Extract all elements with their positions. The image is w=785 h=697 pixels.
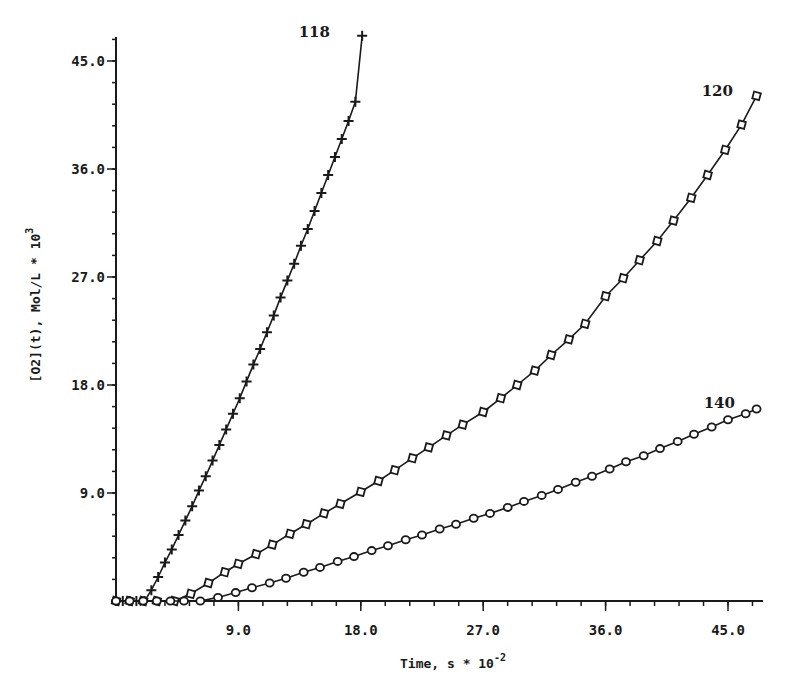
plus-marker — [201, 471, 211, 481]
square-marker — [336, 500, 345, 509]
plus-marker — [269, 310, 279, 320]
diamond-marker — [112, 597, 120, 604]
diamond-marker — [316, 564, 324, 571]
square-marker — [565, 335, 574, 344]
plus-marker — [153, 572, 163, 582]
plus-marker — [337, 134, 347, 144]
square-marker — [752, 92, 761, 101]
square-marker — [513, 381, 522, 390]
y-axis-title: [O2](t), Mol/L * 103 — [24, 228, 43, 383]
square-marker — [268, 540, 277, 549]
plus-marker — [296, 241, 306, 251]
diamond-marker — [153, 597, 161, 604]
diamond-marker — [180, 597, 188, 604]
diamond-marker — [588, 473, 596, 480]
diamond-marker — [622, 458, 630, 465]
diamond-marker — [690, 431, 698, 438]
curve-label-120: 120 — [702, 82, 733, 100]
square-marker — [703, 171, 712, 180]
plus-marker — [194, 486, 204, 496]
series-140 — [112, 405, 761, 604]
y-tick-label: 36.0 — [71, 161, 105, 177]
y-tick-label: 18.0 — [71, 377, 105, 393]
diamond-marker — [166, 597, 174, 604]
x-tick-label: 27.0 — [466, 622, 500, 638]
square-marker — [737, 120, 746, 129]
plus-marker — [228, 409, 238, 419]
square-marker — [234, 560, 243, 569]
plus-marker — [187, 501, 197, 511]
diamond-marker — [266, 579, 274, 586]
plus-marker — [180, 516, 190, 526]
square-marker — [221, 568, 230, 577]
diamond-marker — [656, 445, 664, 452]
plus-marker — [208, 456, 218, 466]
diamond-marker — [368, 547, 376, 554]
square-marker — [619, 274, 628, 283]
plus-marker — [255, 344, 265, 354]
plus-marker — [276, 292, 286, 302]
plus-marker — [262, 327, 272, 337]
square-marker — [459, 420, 468, 429]
square-marker — [357, 488, 366, 497]
series-line-140 — [116, 409, 757, 601]
plus-marker — [167, 544, 177, 554]
diamond-marker — [418, 531, 426, 538]
diamond-marker — [384, 542, 392, 549]
square-marker — [669, 216, 678, 225]
diamond-marker — [753, 405, 761, 412]
square-marker — [581, 320, 590, 329]
plus-marker — [174, 530, 184, 540]
square-marker — [408, 454, 417, 463]
diamond-marker — [126, 597, 134, 604]
diamond-marker — [232, 589, 240, 596]
curve-label-140: 140 — [704, 394, 735, 412]
square-marker — [320, 509, 329, 518]
diamond-marker — [452, 521, 460, 528]
plus-marker — [214, 440, 224, 450]
square-marker — [286, 530, 295, 539]
plus-marker — [316, 188, 326, 198]
diamond-marker — [402, 536, 410, 543]
square-marker — [374, 477, 383, 486]
plus-marker — [160, 558, 170, 568]
series-line-120 — [116, 96, 757, 601]
square-marker — [479, 408, 488, 417]
plus-marker — [357, 31, 367, 41]
x-axis-title: Time, s * 10-2 — [400, 652, 506, 671]
diamond-marker — [724, 416, 732, 423]
labels: 9.018.027.036.045.09.018.027.036.045.0Ti… — [24, 23, 745, 671]
diamond-marker — [572, 479, 580, 486]
square-marker — [302, 520, 311, 529]
diamond-marker — [470, 515, 478, 522]
diamond-marker — [606, 465, 614, 472]
plus-marker — [282, 276, 292, 286]
diamond-marker — [334, 558, 342, 565]
plus-marker — [344, 116, 354, 126]
diamond-marker — [504, 504, 512, 511]
plus-marker — [323, 170, 333, 180]
diamond-marker — [282, 575, 290, 582]
x-tick-label: 45.0 — [711, 622, 745, 638]
x-tick-label: 9.0 — [226, 622, 251, 638]
diamond-marker — [674, 438, 682, 445]
chart: 9.018.027.036.045.09.018.027.036.045.0Ti… — [0, 0, 785, 697]
diamond-marker — [196, 597, 204, 604]
square-marker — [252, 550, 261, 559]
series-layer — [111, 31, 761, 606]
square-marker — [425, 443, 434, 452]
axes — [107, 37, 763, 611]
square-marker — [721, 146, 730, 155]
square-marker — [497, 394, 506, 403]
diamond-marker — [554, 486, 562, 493]
series-118 — [111, 31, 367, 606]
plus-marker — [303, 224, 313, 234]
diamond-marker — [300, 569, 308, 576]
diamond-marker — [486, 510, 494, 517]
square-marker — [653, 237, 662, 246]
square-marker — [601, 292, 610, 301]
square-marker — [687, 194, 696, 203]
y-tick-label: 45.0 — [71, 53, 105, 69]
diamond-marker — [708, 423, 716, 430]
square-marker — [187, 590, 196, 599]
